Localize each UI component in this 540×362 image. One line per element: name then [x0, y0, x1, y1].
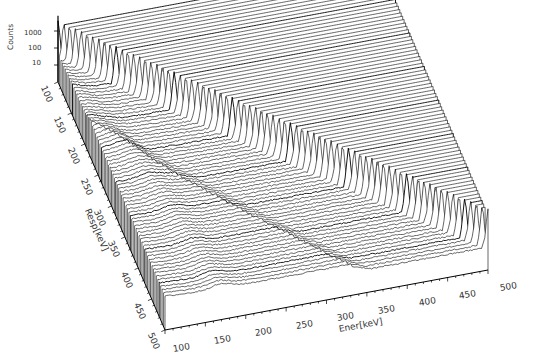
z-axis-label: Counts — [6, 24, 15, 50]
z-tick-100: 100 — [28, 44, 41, 52]
z-tick-1000: 1000 — [24, 29, 42, 37]
z-tick-10: 10 — [32, 59, 41, 67]
